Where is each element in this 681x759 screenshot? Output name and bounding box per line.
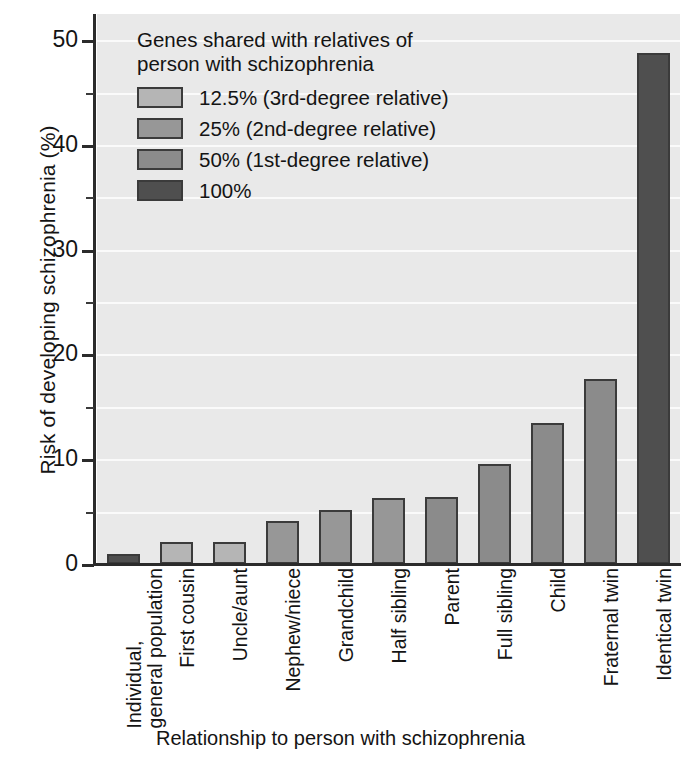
bar <box>372 498 405 564</box>
x-tick-label: Half sibling <box>389 568 410 663</box>
x-tick-label-line: Full sibling <box>494 568 516 660</box>
bar <box>266 521 299 564</box>
legend-swatch <box>137 149 183 170</box>
y-tick-major <box>82 564 94 567</box>
y-tick-label: 40 <box>34 133 78 156</box>
x-tick-label-slot: Half sibling <box>365 566 413 716</box>
bar <box>160 542 193 564</box>
y-axis-line <box>93 14 96 565</box>
x-tick-label: Fraternal twin <box>601 568 622 686</box>
legend-item: 50% (1st-degree relative) <box>137 144 557 175</box>
x-tick-label-line: Identical twin <box>653 568 675 681</box>
gridline <box>97 302 680 304</box>
y-tick-minor <box>86 302 94 304</box>
x-tick-label: Parent <box>442 568 463 625</box>
x-tick-label: Uncle/aunt <box>230 568 251 661</box>
y-tick-label: 30 <box>34 238 78 261</box>
gridline <box>97 354 680 356</box>
bar <box>478 464 511 564</box>
bar <box>425 497 458 564</box>
x-tick-label: Child <box>548 568 569 612</box>
legend-item: 100% <box>137 175 557 206</box>
y-tick-label: 0 <box>34 552 78 575</box>
y-tick-label: 10 <box>34 447 78 470</box>
y-tick-major <box>82 459 94 462</box>
legend-label: 100% <box>199 179 251 203</box>
x-tick-label-slot: Uncle/aunt <box>206 566 254 716</box>
bar <box>637 53 670 564</box>
x-tick-label: Nephew/niece <box>283 568 304 692</box>
x-tick-label-line: Parent <box>441 568 463 625</box>
x-tick-label: Grandchild <box>336 568 357 662</box>
y-tick-minor <box>86 407 94 409</box>
x-axis-tick-labels: Individual,general populationFirst cousi… <box>97 566 680 716</box>
x-tick-label: Identical twin <box>654 568 675 681</box>
legend-swatch <box>137 118 183 139</box>
x-tick-label-line: Uncle/aunt <box>229 568 251 661</box>
legend-label: 25% (2nd-degree relative) <box>199 117 436 141</box>
x-tick-label-slot: Child <box>524 566 572 716</box>
x-tick-label: First cousin <box>177 568 198 668</box>
y-tick-major <box>82 40 94 43</box>
bar <box>213 542 246 564</box>
legend-swatch <box>137 87 183 108</box>
legend-title: Genes shared with relatives of person wi… <box>137 28 557 76</box>
x-tick-label-slot: Fraternal twin <box>577 566 625 716</box>
x-tick-label-line: Child <box>547 568 569 612</box>
x-tick-label-line: Individual, <box>123 641 145 729</box>
y-axis-tick-labels: 01020304050 <box>24 0 78 600</box>
x-tick-label-slot: Grandchild <box>312 566 360 716</box>
y-tick-label: 20 <box>34 342 78 365</box>
y-tick-major <box>82 145 94 148</box>
bar <box>531 423 564 564</box>
x-tick-label-line: Fraternal twin <box>600 568 622 686</box>
x-tick-label-slot: First cousin <box>153 566 201 716</box>
y-tick-label: 50 <box>34 28 78 51</box>
legend-items: 12.5% (3rd-degree relative)25% (2nd-degr… <box>137 82 557 206</box>
x-tick-label-slot: Individual,general population <box>100 566 148 716</box>
y-tick-major <box>82 250 94 253</box>
legend-label: 12.5% (3rd-degree relative) <box>199 86 449 110</box>
bar-chart-figure: Risk of developing schizophrenia (%) 010… <box>0 0 681 759</box>
legend-item: 12.5% (3rd-degree relative) <box>137 82 557 113</box>
y-tick-minor <box>86 197 94 199</box>
legend-label: 50% (1st-degree relative) <box>199 148 429 172</box>
x-tick-label-slot: Full sibling <box>471 566 519 716</box>
y-tick-minor <box>86 93 94 95</box>
x-tick-label-slot: Parent <box>418 566 466 716</box>
legend: Genes shared with relatives of person wi… <box>137 28 557 206</box>
y-tick-minor <box>86 512 94 514</box>
x-tick-label-slot: Identical twin <box>630 566 678 716</box>
legend-item: 25% (2nd-degree relative) <box>137 113 557 144</box>
x-axis-title: Relationship to person with schizophreni… <box>0 727 681 750</box>
legend-swatch <box>137 180 183 201</box>
y-tick-major <box>82 354 94 357</box>
x-tick-label-slot: Nephew/niece <box>259 566 307 716</box>
x-tick-label-line: First cousin <box>176 568 198 668</box>
bar <box>319 510 352 564</box>
x-tick-label-line: Nephew/niece <box>282 568 304 692</box>
x-tick-label-line: Half sibling <box>388 568 410 663</box>
gridline <box>97 250 680 252</box>
bar <box>584 379 617 564</box>
x-tick-label-line: Grandchild <box>335 568 357 662</box>
x-tick-label: Full sibling <box>495 568 516 660</box>
